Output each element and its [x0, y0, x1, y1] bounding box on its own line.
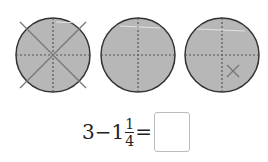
minus-sign: −	[95, 120, 112, 144]
circle-1	[16, 18, 90, 92]
mixed-whole: 1	[112, 120, 125, 144]
equation: 3 − 1 1 4 =	[82, 112, 190, 152]
equals-sign: =	[135, 120, 152, 144]
answer-box[interactable]	[154, 112, 190, 152]
denominator: 4	[125, 134, 134, 148]
numerator: 1	[125, 117, 134, 131]
fraction-circles-figure	[0, 0, 268, 110]
minuend: 3	[82, 120, 95, 144]
circle-3	[185, 18, 259, 92]
fraction: 1 4	[125, 117, 134, 148]
circle-2	[101, 18, 175, 92]
